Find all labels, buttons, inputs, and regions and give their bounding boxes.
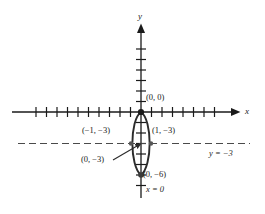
y-axis-label: y <box>138 12 142 21</box>
origin-label: (0, 0) <box>146 93 164 102</box>
x-axis <box>12 107 232 117</box>
vertex-label: (0, −3) <box>81 155 104 164</box>
left-point-label: (−1, −3) <box>82 126 110 135</box>
graph-figure: y x (0, 0) (−1, −3) (1, −3) (0, −3) (0, … <box>0 0 265 214</box>
axis-of-symmetry-label: x = 0 <box>146 185 164 194</box>
point-marker-origin <box>138 109 144 115</box>
point-marker-left <box>129 141 133 145</box>
coordinate-plane-svg <box>0 0 265 214</box>
point-marker-right <box>149 141 153 145</box>
right-point-label: (1, −3) <box>152 126 175 135</box>
dashed-line-label: y = −3 <box>209 149 233 158</box>
x-axis-label: x <box>245 107 249 116</box>
bottom-point-label: (0, −6) <box>143 170 166 179</box>
